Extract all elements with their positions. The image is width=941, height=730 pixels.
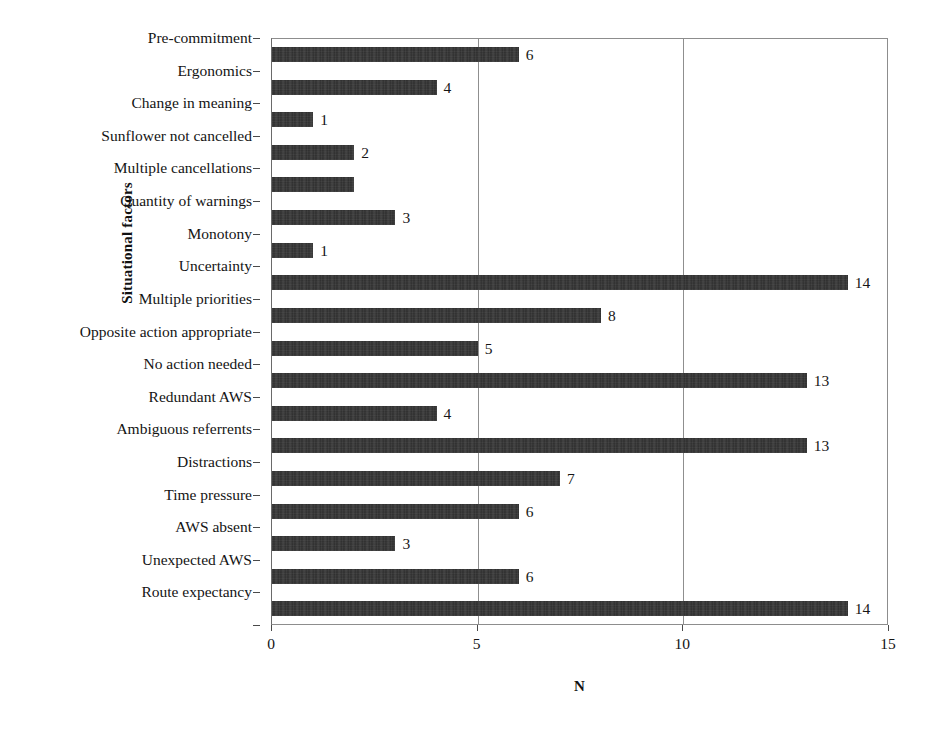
category-label: No action needed: [144, 354, 252, 374]
bar[interactable]: [272, 601, 848, 616]
bar-slot: 7: [272, 463, 887, 496]
bar[interactable]: [272, 145, 354, 160]
bar-value-label: 6: [526, 45, 534, 64]
bar-value-label: 1: [320, 110, 328, 129]
bar[interactable]: [272, 536, 395, 551]
bar-value-label: 3: [402, 534, 410, 553]
bar-slot: 14: [272, 593, 887, 626]
plot-area: 641231148513413763614: [271, 38, 888, 625]
bar-slot: 3: [272, 528, 887, 561]
bar-slot: 2: [272, 137, 887, 170]
bar-value-label: 14: [855, 273, 871, 292]
bar[interactable]: [272, 569, 519, 584]
bar-slot: 4: [272, 72, 887, 105]
category-axis: Pre-commitmentErgonomicsChange in meanin…: [48, 38, 260, 625]
category-label: Redundant AWS: [149, 387, 252, 407]
bar-slot: 4: [272, 398, 887, 431]
bar-slot: 1: [272, 235, 887, 268]
bar-slot: 6: [272, 496, 887, 529]
bar[interactable]: [272, 47, 519, 62]
x-axis-tick-label: 10: [675, 634, 691, 654]
x-axis-tick: [888, 625, 889, 631]
bar-value-label: 1: [320, 241, 328, 260]
x-axis-title: N: [271, 678, 888, 695]
category-tick: [253, 462, 260, 463]
category-tick: [253, 299, 260, 300]
bar[interactable]: [272, 177, 354, 192]
bar-value-label: 6: [526, 502, 534, 521]
bar[interactable]: [272, 275, 848, 290]
bar[interactable]: [272, 341, 478, 356]
bar-value-label: 7: [567, 469, 575, 488]
bar-value-label: 14: [855, 599, 871, 618]
bar-value-label: 2: [361, 143, 369, 162]
bar[interactable]: [272, 210, 395, 225]
category-tick: [253, 364, 260, 365]
category-label: Multiple priorities: [139, 289, 252, 309]
bar-value-label: 4: [444, 78, 452, 97]
category-label: Sunflower not cancelled: [101, 126, 252, 146]
bar-slot: 8: [272, 300, 887, 333]
bar-slot: 1: [272, 104, 887, 137]
bar[interactable]: [272, 438, 807, 453]
category-label: Distractions: [177, 452, 252, 472]
category-tick: [253, 592, 260, 593]
category-label: Change in meaning: [131, 93, 252, 113]
category-label: Uncertainty: [179, 256, 252, 276]
category-label: Ambiguous referrents: [116, 419, 252, 439]
category-label: Monotony: [187, 224, 252, 244]
bar-chart-figure: Situational factors Pre-commitmentErgono…: [0, 0, 941, 730]
category-tick: [253, 168, 260, 169]
category-label: Ergonomics: [177, 61, 252, 81]
category-tick: [253, 560, 260, 561]
bar[interactable]: [272, 504, 519, 519]
bar-slot: 13: [272, 365, 887, 398]
bar-value-label: 8: [608, 306, 616, 325]
bar-slot: 13: [272, 430, 887, 463]
bar-slot: 3: [272, 202, 887, 235]
category-label: Quantity of warnings: [120, 191, 252, 211]
category-label: AWS absent: [175, 517, 252, 537]
category-tick: [253, 266, 260, 267]
bar-slot: [272, 169, 887, 202]
category-tick: [253, 234, 260, 235]
bar[interactable]: [272, 112, 313, 127]
category-tick: [253, 201, 260, 202]
category-label: Multiple cancellations: [114, 158, 252, 178]
bar-slot: 6: [272, 39, 887, 72]
x-axis-tick-label: 15: [880, 634, 896, 654]
category-tick: [253, 397, 260, 398]
bar[interactable]: [272, 471, 560, 486]
x-axis-tick-label: 0: [267, 634, 275, 654]
bar[interactable]: [272, 308, 601, 323]
x-axis-tick: [682, 625, 683, 631]
category-tick: [253, 103, 260, 104]
bar-slot: 6: [272, 561, 887, 594]
category-tick: [253, 625, 260, 626]
category-tick: [253, 527, 260, 528]
category-tick: [253, 136, 260, 137]
category-tick: [253, 38, 260, 39]
category-tick: [253, 429, 260, 430]
bar[interactable]: [272, 373, 807, 388]
bar-value-label: 5: [485, 339, 493, 358]
x-axis-tick: [271, 625, 272, 631]
bar-value-label: 13: [814, 436, 830, 455]
category-tick: [253, 332, 260, 333]
category-label: Unexpected AWS: [142, 550, 252, 570]
bar-value-label: 3: [402, 208, 410, 227]
bar-value-label: 13: [814, 371, 830, 390]
bar[interactable]: [272, 406, 437, 421]
category-label: Route expectancy: [141, 582, 252, 602]
bar-value-label: 6: [526, 567, 534, 586]
bar-slot: 14: [272, 267, 887, 300]
category-tick: [253, 495, 260, 496]
bar-slot: 5: [272, 333, 887, 366]
bar-value-label: 4: [444, 404, 452, 423]
x-axis-tick: [477, 625, 478, 631]
x-axis: 051015: [271, 625, 888, 665]
x-axis-tick-label: 5: [473, 634, 481, 654]
bar[interactable]: [272, 243, 313, 258]
category-label: Pre-commitment: [148, 28, 252, 48]
bar[interactable]: [272, 80, 437, 95]
